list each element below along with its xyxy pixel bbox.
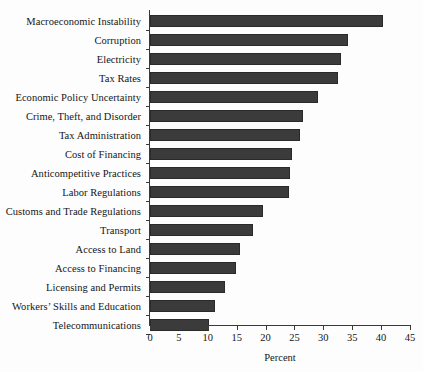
- category-label: Tax Administration: [0, 126, 145, 145]
- bar: [150, 243, 240, 255]
- bar-row: [150, 88, 410, 107]
- category-label: Anticompetitive Practices: [0, 164, 145, 183]
- bar-row: [150, 297, 410, 316]
- bar: [150, 300, 215, 312]
- bar-row: [150, 145, 410, 164]
- category-label: Corruption: [0, 31, 145, 50]
- bar: [150, 186, 289, 198]
- x-axis-tick: [150, 325, 151, 330]
- x-axis-tick: [323, 325, 324, 330]
- bar: [150, 205, 263, 217]
- bar-row: [150, 202, 410, 221]
- category-label: Access to Land: [0, 240, 145, 259]
- bar: [150, 72, 338, 84]
- x-axis-tick: [237, 325, 238, 330]
- bar: [150, 262, 236, 274]
- category-label: Transport: [0, 221, 145, 240]
- x-axis-tick: [179, 325, 180, 330]
- bar-chart: Macroeconomic InstabilityCorruptionElect…: [0, 0, 423, 372]
- x-axis-tick: [208, 325, 209, 330]
- category-label: Crime, Theft, and Disorder: [0, 107, 145, 126]
- bar: [150, 148, 292, 160]
- category-label: Economic Policy Uncertainty: [0, 88, 145, 107]
- x-axis-tick: [294, 325, 295, 330]
- bar-row: [150, 107, 410, 126]
- category-label: Tax Rates: [0, 69, 145, 88]
- category-label: Access to Financing: [0, 259, 145, 278]
- category-label: Labor Regulations: [0, 183, 145, 202]
- bar-row: [150, 126, 410, 145]
- x-axis-tick: [266, 325, 267, 330]
- category-label: Licensing and Permits: [0, 278, 145, 297]
- bar: [150, 224, 253, 236]
- bar: [150, 15, 383, 27]
- bar-row: [150, 240, 410, 259]
- bar: [150, 53, 341, 65]
- category-label: Telecommunications: [0, 316, 145, 335]
- bar-row: [150, 31, 410, 50]
- x-axis-tick: [410, 325, 411, 330]
- bar-row: [150, 164, 410, 183]
- bar-row: [150, 69, 410, 88]
- bar: [150, 129, 300, 141]
- bar-row: [150, 259, 410, 278]
- bar-row: [150, 12, 410, 31]
- bar-row: [150, 221, 410, 240]
- category-label: Cost of Financing: [0, 145, 145, 164]
- x-axis-tick: [381, 325, 382, 330]
- x-axis-title: Percent: [150, 352, 410, 363]
- bar-row: [150, 278, 410, 297]
- bar: [150, 91, 318, 103]
- bar: [150, 34, 348, 46]
- bar-row: [150, 183, 410, 202]
- category-label: Macroeconomic Instability: [0, 12, 145, 31]
- bar: [150, 281, 225, 293]
- category-label: Customs and Trade Regulations: [0, 202, 145, 221]
- plot-area: [150, 12, 410, 325]
- x-axis-tick: [352, 325, 353, 330]
- bar: [150, 110, 303, 122]
- x-axis-line: [149, 325, 411, 326]
- x-axis-tick-label: 45: [390, 332, 423, 343]
- category-axis-labels: Macroeconomic InstabilityCorruptionElect…: [0, 12, 145, 335]
- category-label: Electricity: [0, 50, 145, 69]
- bar: [150, 167, 290, 179]
- category-label: Workers’ Skills and Education: [0, 297, 145, 316]
- bar-row: [150, 50, 410, 69]
